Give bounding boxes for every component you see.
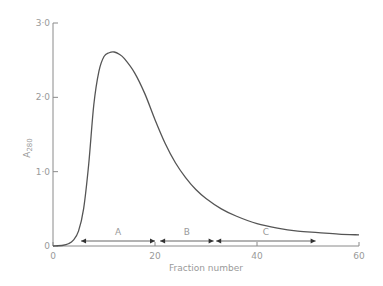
- x-axis-label: Fraction number: [169, 263, 243, 273]
- arrowhead-icon: [150, 239, 155, 244]
- elution-chart: 020406001·02·03·0 ABC Fraction number A2…: [0, 0, 383, 286]
- arrowhead-icon: [216, 239, 221, 244]
- y-axis-label-sub: 280: [26, 138, 34, 151]
- fraction-pool-label: C: [263, 227, 269, 237]
- y-tick-label: 1·0: [36, 167, 51, 177]
- y-tick-label: 3·0: [36, 18, 51, 28]
- arrowhead-icon: [311, 239, 316, 244]
- y-axis-label: A280: [22, 138, 34, 158]
- fraction-pool-label: B: [184, 227, 190, 237]
- axes: [53, 23, 359, 246]
- x-tick-label: 40: [251, 251, 263, 261]
- fraction-pool-b: B: [160, 227, 214, 241]
- fraction-pool-label: A: [115, 227, 122, 237]
- y-tick-label: 2·0: [36, 92, 51, 102]
- x-tick-label: 0: [50, 251, 56, 261]
- fraction-pool-annotations: ABC: [81, 227, 316, 244]
- x-tick-label: 20: [149, 251, 161, 261]
- arrowhead-icon: [81, 239, 86, 244]
- x-tick-label: 60: [353, 251, 365, 261]
- arrowhead-icon: [160, 239, 165, 244]
- svg-text:A280: A280: [22, 138, 34, 158]
- axis-ticks: 020406001·02·03·0: [36, 18, 365, 261]
- data-curve: [53, 52, 359, 246]
- fraction-pool-a: A: [81, 227, 155, 241]
- arrowhead-icon: [209, 239, 214, 244]
- y-tick-label: 0: [44, 241, 50, 251]
- fraction-pool-c: C: [216, 227, 315, 241]
